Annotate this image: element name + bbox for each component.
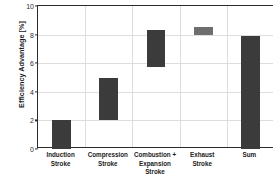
y-tick-label-10: 10: [26, 3, 34, 10]
x-axis-tick-labels: Induction StrokeCompression StrokeCombus…: [37, 151, 273, 184]
gridline-y-2: [38, 120, 273, 121]
gridline-x-2: [132, 6, 133, 147]
x-tick-label-0: Induction Stroke: [37, 151, 84, 168]
y-tick-mark-0: [35, 148, 38, 149]
bar-combustion-expansion-stroke: [147, 30, 166, 68]
y-tick-mark-10: [35, 5, 38, 6]
gridline-x-4: [227, 6, 228, 147]
plot-area: 0246810: [37, 5, 273, 148]
efficiency-advantage-chart: Efficiency Advantage [%] 0246810 Inducti…: [0, 0, 276, 186]
bar-sum: [241, 36, 260, 149]
y-tick-label-4: 4: [30, 88, 34, 95]
y-axis-title: Efficiency Advantage [%]: [17, 0, 26, 140]
gridline-x-1: [85, 6, 86, 147]
y-tick-mark-8: [35, 34, 38, 35]
gridline-y-4: [38, 92, 273, 93]
y-tick-label-0: 0: [30, 146, 34, 153]
bar-induction-stroke: [52, 120, 71, 149]
bar-compression-stroke: [99, 78, 118, 120]
x-tick-label-4: Sum: [226, 151, 273, 160]
y-tick-label-6: 6: [30, 60, 34, 67]
x-tick-label-2: Combustion + Expansion Stroke: [131, 151, 178, 177]
x-tick-label-3: Exhaust Stroke: [179, 151, 226, 168]
y-tick-mark-2: [35, 120, 38, 121]
y-tick-mark-6: [35, 63, 38, 64]
bar-exhaust-stroke: [194, 27, 213, 35]
y-tick-label-8: 8: [30, 31, 34, 38]
x-tick-label-1: Compression Stroke: [84, 151, 131, 168]
gridline-x-3: [180, 6, 181, 147]
y-tick-mark-4: [35, 91, 38, 92]
y-tick-label-2: 2: [30, 117, 34, 124]
